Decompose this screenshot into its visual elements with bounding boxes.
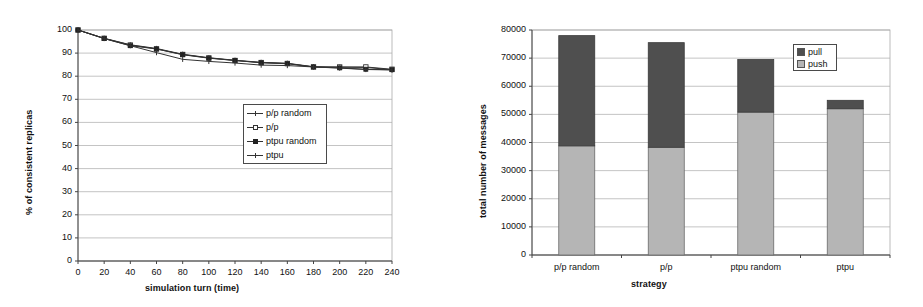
legend-line-swatch-icon bbox=[247, 123, 263, 132]
line-chart-legend-label: ptpu bbox=[263, 150, 284, 160]
legend-marker-icon bbox=[255, 153, 256, 158]
line-chart-legend-item: ptpu random bbox=[244, 134, 326, 148]
line-chart-legend-item: ptpu bbox=[244, 148, 326, 162]
legend-marker-icon bbox=[253, 139, 258, 144]
legend-marker-icon bbox=[253, 125, 258, 130]
bar-chart-legend-item: push bbox=[794, 58, 836, 70]
legend-color-swatch-icon bbox=[797, 60, 805, 68]
bar-chart-plot-area bbox=[460, 0, 923, 307]
legend-marker-icon bbox=[255, 111, 256, 116]
line-chart-legend-item: p/p bbox=[244, 120, 326, 134]
line-chart-plot-area bbox=[0, 0, 460, 307]
legend-line-swatch-icon bbox=[247, 137, 263, 146]
line-chart-legend-label: p/p random bbox=[263, 108, 312, 118]
legend-line-swatch-icon bbox=[247, 109, 263, 118]
bar-chart-legend-label: push bbox=[805, 59, 828, 69]
bar-chart-legend: pullpush bbox=[793, 44, 837, 71]
line-chart-legend-label: ptpu random bbox=[263, 136, 317, 146]
figure-page: % of consistent replicas simulation turn… bbox=[0, 0, 923, 307]
legend-color-swatch-icon bbox=[797, 48, 805, 56]
line-chart-legend: p/p randomp/pptpu randomptpu bbox=[243, 104, 327, 164]
bar-chart-figure: total number of messages strategy 010000… bbox=[460, 0, 923, 307]
line-chart-legend-item: p/p random bbox=[244, 106, 326, 120]
line-chart-legend-label: p/p bbox=[263, 122, 279, 132]
legend-line-swatch-icon bbox=[247, 151, 263, 160]
line-chart-figure: % of consistent replicas simulation turn… bbox=[0, 0, 460, 307]
bar-chart-legend-label: pull bbox=[805, 47, 822, 57]
bar-chart-legend-item: pull bbox=[794, 46, 836, 58]
